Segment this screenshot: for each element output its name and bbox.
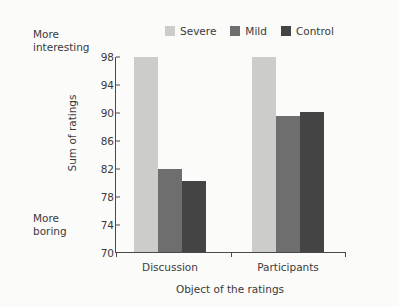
y-tick-label: 74 — [90, 220, 114, 231]
y-tick-mark — [116, 85, 120, 86]
chart-figure: Severe Mild Control More interesting Mor… — [0, 0, 399, 307]
y-tick-label: 70 — [90, 248, 114, 259]
chart-legend: Severe Mild Control — [165, 26, 334, 37]
y-tick-label: 94 — [90, 80, 114, 91]
legend-item-mild[interactable]: Mild — [230, 26, 267, 37]
legend-label-control: Control — [296, 26, 334, 37]
annotation-more-interesting: More interesting — [33, 28, 90, 53]
x-tick-label-discussion: Discussion — [142, 261, 198, 273]
legend-swatch-control — [281, 26, 291, 36]
y-tick-mark — [116, 197, 120, 198]
bar-control-participants[interactable] — [300, 112, 324, 252]
y-tick-label: 86 — [90, 136, 114, 147]
bar-mild-discussion[interactable] — [158, 169, 182, 252]
y-tick-mark — [116, 57, 120, 58]
y-tick-label: 82 — [90, 164, 114, 175]
y-tick-mark — [116, 225, 120, 226]
legend-swatch-severe — [165, 26, 175, 36]
y-tick-label: 90 — [90, 108, 114, 119]
plot-area: 7074788286909498 DiscussionParticipants — [115, 57, 345, 253]
y-tick-label: 78 — [90, 192, 114, 203]
x-tick-mark — [231, 252, 232, 257]
y-tick-mark — [116, 141, 120, 142]
bar-severe-discussion[interactable] — [134, 57, 158, 252]
y-tick-label: 98 — [90, 52, 114, 63]
legend-item-control[interactable]: Control — [281, 26, 334, 37]
bar-control-discussion[interactable] — [182, 181, 206, 252]
bar-mild-participants[interactable] — [276, 116, 300, 253]
bar-severe-participants[interactable] — [252, 57, 276, 252]
x-tick-mark — [116, 252, 117, 257]
legend-item-severe[interactable]: Severe — [165, 26, 216, 37]
x-tick-label-participants: Participants — [257, 261, 319, 273]
x-tick-mark — [345, 252, 346, 257]
x-axis-title: Object of the ratings — [176, 283, 284, 295]
y-axis-title: Sum of ratings — [66, 95, 78, 172]
annotation-more-boring: More boring — [33, 212, 67, 237]
y-tick-mark — [116, 169, 120, 170]
legend-swatch-mild — [230, 26, 240, 36]
y-tick-mark — [116, 113, 120, 114]
legend-label-severe: Severe — [180, 26, 216, 37]
legend-label-mild: Mild — [245, 26, 267, 37]
